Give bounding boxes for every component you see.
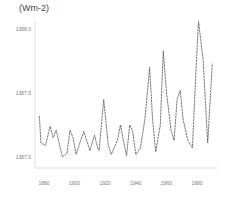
x-tick-label: 1880 [38,180,49,186]
y-tick-label: 1368.0 [16,26,32,32]
data-line [39,21,212,157]
x-tick-labels: 188019001920194019601980 [38,180,202,186]
x-tick-label: 1900 [69,180,80,186]
y-tick-label: 1367.5 [16,90,32,96]
line-chart: 1368.01367.51367.0 188019001920194019601… [0,0,227,202]
x-tick-label: 1940 [130,180,141,186]
y-tick-label: 1367.0 [16,154,32,160]
y-tick-labels: 1368.01367.51367.0 [16,26,32,160]
x-tick-label: 1980 [191,180,202,186]
x-tick-label: 1960 [161,180,172,186]
x-tick-label: 1920 [100,180,111,186]
